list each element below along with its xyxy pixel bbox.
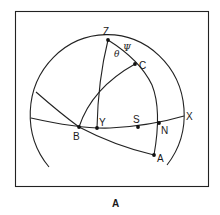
angle-theta: θ xyxy=(114,49,120,59)
point-b xyxy=(77,125,81,129)
label-y: Y xyxy=(99,117,106,128)
point-z xyxy=(106,38,110,42)
angle-psi: Ψ xyxy=(123,43,132,53)
label-b: B xyxy=(73,131,80,142)
label-s: S xyxy=(133,114,140,125)
point-a xyxy=(152,153,156,157)
label-c: C xyxy=(139,60,146,71)
label-x: X xyxy=(186,111,193,122)
point-s xyxy=(136,125,140,129)
label-a: A xyxy=(157,153,164,164)
sphere-outline xyxy=(30,35,184,167)
spherical-diagram: Z C B Y S N A X θ Ψ A xyxy=(0,0,220,215)
arc-b-c xyxy=(79,64,135,127)
figure-caption: A xyxy=(112,198,119,209)
point-c xyxy=(133,62,137,66)
label-z: Z xyxy=(103,26,109,37)
label-n: N xyxy=(161,125,168,136)
